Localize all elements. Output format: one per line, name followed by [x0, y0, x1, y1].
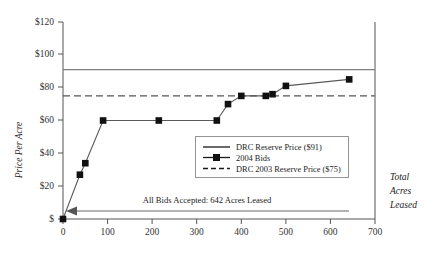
legend-label-reserve-2004: DRC Reserve Price ($91) [236, 143, 322, 152]
data-point-marker [100, 117, 107, 124]
y-tick-label-80: $80 [40, 82, 55, 92]
y-axis-ticks [58, 22, 63, 219]
x-tick-label-100: 100 [100, 227, 115, 237]
x-axis-title: Total Acres Leased [389, 172, 417, 210]
x-tick-label-600: 600 [323, 227, 338, 237]
y-tick-label-120: $120 [35, 17, 54, 27]
x-tick-label-500: 500 [279, 227, 294, 237]
x-tick-label-400: 400 [234, 227, 249, 237]
x-axis-tick-labels: 0 100 200 300 400 500 600 700 [61, 227, 383, 237]
x-tick-label-300: 300 [190, 227, 205, 237]
y-tick-label-0: $ [49, 214, 54, 224]
x-axis-ticks [63, 219, 375, 224]
legend-label-reserve-2003: DRC 2003 Reserve Price ($75) [236, 165, 341, 174]
y-axis-title: Price Per Acre [14, 122, 24, 179]
x-axis-title-line-1: Total [390, 172, 410, 182]
x-axis-title-line-2: Acres [389, 186, 412, 196]
x-axis-title-line-3: Leased [389, 200, 417, 210]
legend-label-bids-2004: 2004 Bids [236, 154, 270, 163]
y-tick-label-40: $40 [40, 148, 55, 158]
data-point-marker [238, 93, 245, 100]
all-bids-accepted-annotation: All Bids Accepted: 642 Acres Leased [66, 195, 349, 215]
data-point-marker [156, 117, 163, 124]
y-tick-label-60: $60 [40, 115, 55, 125]
data-point-marker [225, 101, 232, 108]
data-point-marker [214, 117, 221, 124]
chart-figure: $ $20 $40 $60 $80 $100 $120 0 100 200 30… [0, 0, 438, 254]
legend-square-marker-icon [213, 154, 220, 161]
annotation-label: All Bids Accepted: 642 Acres Leased [143, 195, 272, 205]
data-point-marker [77, 171, 84, 178]
y-tick-label-20: $20 [40, 181, 55, 191]
data-point-marker [269, 91, 276, 98]
y-axis-tick-labels: $ $20 $40 $60 $80 $100 $120 [35, 17, 54, 224]
data-point-marker [283, 83, 290, 90]
chart-legend: DRC Reserve Price ($91) 2004 Bids DRC 20… [196, 137, 349, 178]
data-point-marker [60, 216, 67, 223]
data-point-marker [82, 160, 89, 167]
x-tick-label-0: 0 [61, 227, 66, 237]
chart-canvas: $ $20 $40 $60 $80 $100 $120 0 100 200 30… [0, 0, 438, 254]
x-tick-label-200: 200 [145, 227, 160, 237]
data-point-marker [263, 93, 270, 100]
y-tick-label-100: $100 [35, 49, 54, 59]
data-point-marker [346, 76, 353, 83]
x-tick-label-700: 700 [368, 227, 383, 237]
